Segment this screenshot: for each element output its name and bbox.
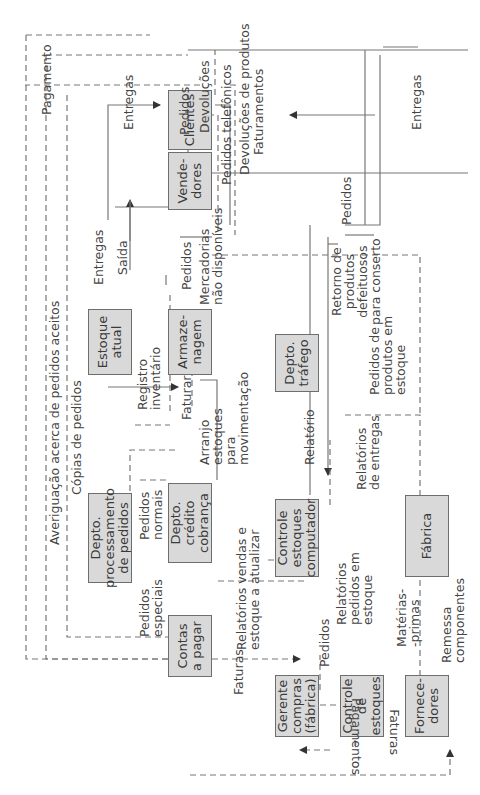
label-saida: Saída [116, 240, 129, 275]
label-pedidos-cli-vend: Pedidos [178, 87, 191, 135]
box-gerente-compras: Gerente compras (fábrica) [275, 675, 319, 737]
box-vendedores: Vende- dores [168, 152, 212, 210]
label-faturar: Faturar [180, 376, 193, 420]
label-pedidos-gerente: Pedidos [318, 619, 331, 667]
box-depto-processamento: Depto. processamento de pedidos [88, 493, 132, 583]
label-pagamento: Pagamento [40, 44, 53, 115]
label-pedidos-vend-fabrica: Pedidos [340, 177, 353, 225]
box-contas-a-pagar: Contas a pagar [168, 615, 212, 677]
label-pedidos-telefonicos: Pedidos telefônicos [220, 65, 233, 186]
label-arranjo-estoques: Arranjo estoques para movimentação [198, 372, 250, 465]
box-armazenagem: Armaze- nagem [168, 309, 212, 375]
label-remessa-componentes: Remessa componentes [440, 578, 466, 663]
label-faturas-left: Faturas [232, 649, 245, 695]
label-mercadorias-nao-disponiveis: Mercadorias não disponíveis [198, 208, 224, 305]
box-depto-credito: Depto. crédito cobrança [168, 483, 212, 563]
box-fornecedores: Fornece- dores [405, 675, 449, 737]
label-relatorio: Relatório [303, 409, 316, 465]
label-entregas-fabrica: Entregas [410, 75, 423, 130]
label-devolucoes-produtos: Devoluções de produtos [238, 24, 251, 175]
label-relatorios-vendas: Relatórios vendas e estoque a atualizar [235, 527, 261, 650]
order-flow-diagram: Contas a pagar Gerente compras (fábrica)… [0, 0, 480, 795]
label-copias-pedidos: Cópias de pedidos [70, 380, 83, 495]
label-retorno-produtos: Retorno de produtos defeituosos para con… [330, 238, 382, 325]
label-averiguacao: Averiguação acerca de pedidos aceitos [48, 301, 61, 545]
label-registro-inventario: Registro inventário [136, 347, 162, 410]
box-depto-trafego: Depto. tráfego [275, 334, 319, 392]
label-pedidos-especiais: Pedidos especiais [138, 579, 164, 637]
label-faturamentos: Faturamentos [252, 69, 265, 155]
label-materias-primas: Matérias- -primas [395, 589, 421, 647]
label-relatorios-pedidos-estoque: Relatórios pedidos em estoque [335, 552, 374, 625]
label-pedidos-produtos-estoque: Pedidos de produtos em estoque [368, 316, 407, 395]
box-estoque-atual: Estoque atual [88, 309, 132, 375]
label-entregas-estoque: Entregas [92, 230, 105, 285]
label-faturas-top: Faturas [388, 709, 401, 755]
label-pagamentos: Pagamentos [350, 698, 363, 775]
label-pedidos-normais: Pedidos normais [138, 490, 164, 540]
label-entregas-clientes: Entregas [122, 75, 135, 130]
label-relatorios-entregas: Relatórios de entregas [355, 415, 381, 490]
box-controle-estoques-computador: Controle estoques computador [275, 499, 319, 577]
label-pedidos-vend-armaz: Pedidos [180, 242, 193, 290]
label-devolucoes: Devoluções [198, 61, 211, 133]
box-fabrica: Fábrica [405, 495, 449, 577]
